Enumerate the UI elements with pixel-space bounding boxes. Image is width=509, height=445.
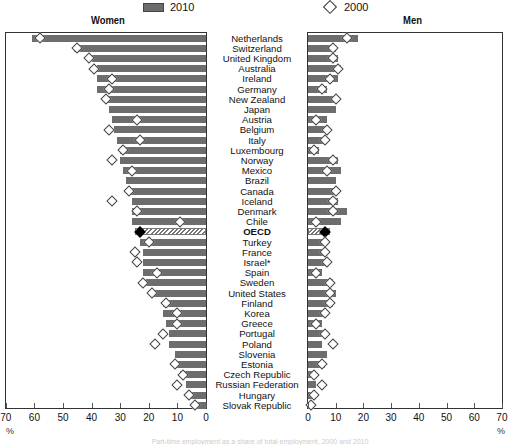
women-axis-tick (92, 403, 93, 408)
women-2010-bar (143, 259, 206, 266)
women-panel-title: Women (91, 14, 125, 26)
men-axis-tick (447, 403, 448, 408)
men-panel-title: Men (403, 14, 422, 26)
women-axis-tick (34, 403, 35, 408)
men-2010-bar (308, 341, 322, 348)
category-label: Belgium (208, 125, 306, 135)
women-2010-bar (120, 147, 206, 154)
women-2010-bar (114, 126, 206, 133)
men-axis-tick (308, 403, 309, 408)
men-2010-bar (308, 351, 327, 358)
legend: 2010 2000 (0, 0, 509, 16)
category-label: Italy (208, 136, 306, 146)
women-2010-bar (169, 341, 206, 348)
women-axis-tick-label: 70 (0, 412, 16, 423)
bar-swatch-icon (143, 3, 164, 12)
women-axis-tick-label: 10 (167, 412, 187, 423)
women-2010-bar (74, 45, 206, 52)
women-2010-bar (112, 116, 206, 123)
women-2010-bar (132, 198, 206, 205)
women-axis-tick-label: 50 (53, 412, 73, 423)
legend-item-2000: 2000 (325, 1, 368, 13)
category-label: Slovak Republic (208, 401, 306, 411)
men-axis-tick (419, 403, 420, 408)
women-2010-bar (132, 218, 206, 225)
women-2010-bar (97, 65, 206, 72)
women-2010-bar (109, 106, 206, 113)
women-2010-bar (163, 310, 206, 317)
men-axis-unit: % (497, 426, 505, 436)
women-2010-bar (129, 188, 206, 195)
category-label: United States (208, 289, 306, 299)
women-2010-bar (120, 157, 206, 164)
men-axis-tick-label: 20 (353, 412, 373, 423)
men-axis-tick-label: 10 (326, 412, 346, 423)
women-axis-tick (206, 403, 207, 408)
men-axis-tick (391, 403, 392, 408)
women-2010-bar (92, 55, 206, 62)
men-axis-tick (474, 403, 475, 408)
men-2010-bar (308, 106, 336, 113)
category-label: Canada (208, 187, 306, 197)
women-axis-tick-label: 40 (82, 412, 102, 423)
women-2010-bar (132, 208, 206, 215)
men-2010-bar (308, 177, 336, 184)
figure-caption: Part-time employment as a share of total… (130, 438, 390, 445)
women-axis-tick-label: 30 (110, 412, 130, 423)
women-axis-tick (6, 403, 7, 408)
women-2010-bar (169, 330, 206, 337)
women-axis-tick-label: 0 (196, 412, 216, 423)
women-2010-bar (32, 35, 206, 42)
men-axis-tick (502, 403, 503, 408)
women-2010-bar (152, 290, 206, 297)
women-axis-tick (120, 403, 121, 408)
women-2010-bar (175, 351, 206, 358)
women-axis-unit: % (6, 426, 14, 436)
legend-label-2000: 2000 (344, 1, 368, 13)
men-axis-tick-label: 70 (492, 412, 509, 423)
men-axis-tick (336, 403, 337, 408)
legend-item-2010: 2010 (143, 1, 194, 13)
men-axis-tick-label: 0 (298, 412, 318, 423)
men-axis-tick (363, 403, 364, 408)
category-label: Hungary (208, 391, 306, 401)
category-label: Brazil (208, 176, 306, 186)
legend-label-2010: 2010 (170, 1, 194, 13)
men-2010-bar (308, 381, 316, 388)
category-label: Russian Federation (208, 380, 306, 390)
category-label: OECD (208, 227, 306, 237)
men-axis-tick-label: 40 (409, 412, 429, 423)
category-label: Ireland (208, 74, 306, 84)
category-label: Poland (208, 340, 306, 350)
men-axis-tick-label: 50 (437, 412, 457, 423)
women-axis-tick-label: 60 (24, 412, 44, 423)
men-axis-tick-label: 60 (464, 412, 484, 423)
men-axis-tick-label: 30 (381, 412, 401, 423)
women-2010-bar (106, 96, 206, 103)
women-axis-tick-label: 20 (139, 412, 159, 423)
category-label: Sweden (208, 278, 306, 288)
women-2010-bar (117, 137, 206, 144)
women-2010-bar (186, 381, 206, 388)
women-axis-tick (149, 403, 150, 408)
category-label: Turkey (208, 238, 306, 248)
women-2010-bar (126, 177, 206, 184)
category-label: Netherlands (208, 34, 306, 44)
women-axis-tick (63, 403, 64, 408)
category-label: Portugal (208, 329, 306, 339)
diamond-marker-icon (323, 0, 337, 14)
women-2010-bar (143, 249, 206, 256)
women-2010-bar (146, 279, 206, 286)
category-label: Germany (208, 85, 306, 95)
women-axis-tick (177, 403, 178, 408)
